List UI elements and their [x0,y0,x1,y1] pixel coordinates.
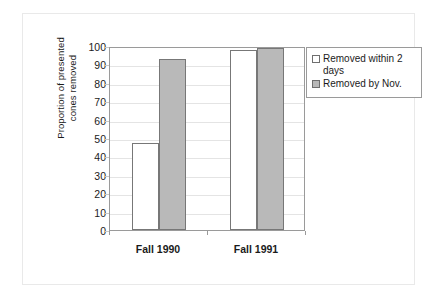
legend-item[interactable]: Removed by Nov. [312,78,417,90]
y-axis-tick-labels: 1009080706050403020100 [73,41,106,237]
bar [230,50,257,230]
y-axis-title-line-1: Proportion of presented [55,37,66,139]
chart-legend: Removed within 2 daysRemoved by Nov. [306,47,422,98]
x-axis-tick-mark [207,231,208,235]
bars-layer [110,48,304,230]
legend-item[interactable]: Removed within 2 days [312,53,417,77]
legend-item-label: Removed within 2 days [323,53,417,77]
y-axis-tick-label: 0 [73,225,106,237]
x-axis-category-label: Fall 1990 [109,242,207,256]
x-axis-tick-mark [305,231,306,235]
bar [159,59,186,230]
y-axis-tick-label: 40 [73,151,106,163]
bar [257,48,284,230]
y-axis-tick-label: 60 [73,115,106,127]
y-axis-tick-label: 50 [73,133,106,145]
x-axis-category-labels: Fall 1990Fall 1991 [109,242,305,258]
y-axis-tick-label: 90 [73,59,106,71]
bar [132,143,159,230]
figure-frame: Proportion of presented cones removed 10… [22,13,415,285]
y-axis-tick-label: 70 [73,96,106,108]
y-axis-tick-label: 20 [73,188,106,200]
legend-swatch-icon [312,80,320,88]
y-axis-tick-label: 100 [73,41,106,53]
x-axis-category-label: Fall 1991 [207,242,305,256]
y-axis-tick-label: 10 [73,207,106,219]
legend-swatch-icon [312,55,320,63]
legend-item-label: Removed by Nov. [323,78,402,90]
x-axis-tick-mark [109,231,110,235]
y-axis-tick-label: 30 [73,170,106,182]
plot-area [109,47,305,231]
y-axis-tick-label: 80 [73,78,106,90]
